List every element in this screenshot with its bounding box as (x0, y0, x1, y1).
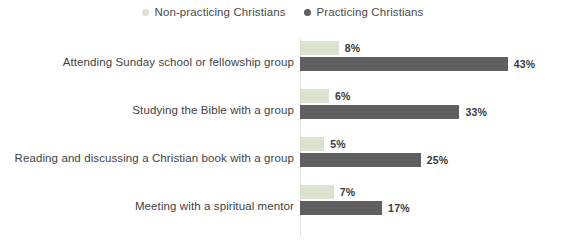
bar-practicing[interactable] (300, 153, 421, 167)
bar-value-non-practicing: 7% (340, 186, 356, 198)
plot-area: Attending Sunday school or fellowship gr… (0, 36, 565, 241)
bar-value-practicing: 17% (388, 202, 410, 214)
bar-group: Reading and discussing a Christian book … (0, 134, 565, 181)
bar-pair: 7% 17% (300, 182, 565, 229)
bar-row-practicing: 17% (300, 201, 410, 215)
legend-item-practicing-christians[interactable]: Practicing Christians (304, 6, 424, 18)
bar-value-practicing: 25% (427, 154, 449, 166)
bar-row-non-practicing: 5% (300, 137, 346, 151)
bar-chart: Non-practicing Christians Practicing Chr… (0, 0, 565, 247)
bar-pair: 8% 43% (300, 38, 565, 85)
bar-non-practicing[interactable] (300, 41, 339, 55)
category-label: Attending Sunday school or fellowship gr… (0, 38, 294, 85)
category-label: Studying the Bible with a group (0, 86, 294, 133)
bar-pair: 5% 25% (300, 134, 565, 181)
bar-group: Studying the Bible with a group 6% 33% (0, 86, 565, 133)
bar-pair: 6% 33% (300, 86, 565, 133)
bar-row-non-practicing: 7% (300, 185, 355, 199)
legend-label-non-practicing-christians: Non-practicing Christians (155, 6, 286, 18)
bar-group: Attending Sunday school or fellowship gr… (0, 38, 565, 85)
bar-practicing[interactable] (300, 57, 508, 71)
bar-non-practicing[interactable] (300, 89, 329, 103)
bar-value-non-practicing: 6% (335, 90, 351, 102)
category-label: Reading and discussing a Christian book … (0, 134, 294, 181)
category-label: Meeting with a spiritual mentor (0, 182, 294, 229)
bar-non-practicing[interactable] (300, 185, 334, 199)
bar-row-non-practicing: 6% (300, 89, 351, 103)
bar-row-non-practicing: 8% (300, 41, 360, 55)
bar-practicing[interactable] (300, 105, 459, 119)
legend-item-non-practicing-christians[interactable]: Non-practicing Christians (142, 6, 286, 18)
bar-row-practicing: 25% (300, 153, 448, 167)
bar-row-practicing: 43% (300, 57, 535, 71)
legend-dot-icon-practicing-christians (304, 9, 311, 16)
legend-label-practicing-christians: Practicing Christians (317, 6, 424, 18)
legend-dot-icon-non-practicing-christians (142, 9, 149, 16)
chart-legend: Non-practicing Christians Practicing Chr… (0, 6, 565, 18)
bar-value-non-practicing: 8% (345, 42, 361, 54)
bar-practicing[interactable] (300, 201, 382, 215)
bar-value-practicing: 43% (514, 58, 536, 70)
bar-value-practicing: 33% (465, 106, 487, 118)
bar-group: Meeting with a spiritual mentor 7% 17% (0, 182, 565, 229)
bar-non-practicing[interactable] (300, 137, 324, 151)
bar-row-practicing: 33% (300, 105, 487, 119)
bar-value-non-practicing: 5% (330, 138, 346, 150)
